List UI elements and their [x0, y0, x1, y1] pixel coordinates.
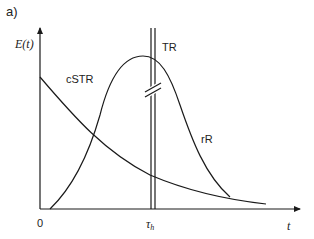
rr-label: rR	[201, 133, 213, 145]
y-axis-label: E(t)	[14, 37, 34, 51]
cstr-curve	[40, 77, 266, 204]
tr-label: TR	[162, 41, 177, 53]
tau-label: τh	[146, 217, 154, 232]
origin-label: 0	[37, 217, 43, 229]
residence-time-diagram: a) E(t) 0 τh t cSTR rR TR	[0, 0, 314, 239]
x-axis-label: t	[287, 219, 291, 233]
panel-label: a)	[6, 4, 18, 19]
tr-break-gap	[144, 83, 162, 98]
cstr-label: cSTR	[66, 73, 94, 85]
